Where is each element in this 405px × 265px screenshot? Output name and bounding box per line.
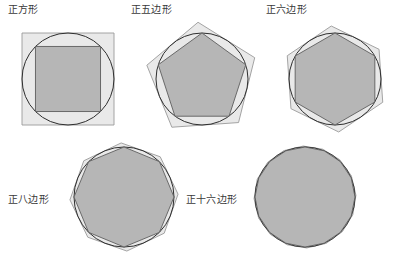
- panel-drawing-pentagon: [134, 18, 274, 146]
- panel-drawing-square: [0, 18, 140, 146]
- panel-label-hexadecagon: 正十六边形: [186, 194, 237, 206]
- polygon-circle-figure: 正方形正五边形正六边形正八边形正十六边形: [0, 0, 405, 265]
- panel-drawing-hexadecagon: [240, 135, 405, 265]
- panel-drawing-hexagon: [268, 18, 405, 146]
- inscribed-polygon-hexadecagon: [255, 147, 355, 247]
- panel-label-square: 正方形: [8, 4, 39, 16]
- panel-drawing-octagon: [56, 135, 196, 265]
- inscribed-polygon-square: [35, 46, 100, 111]
- panel-label-octagon: 正八边形: [8, 194, 49, 206]
- panel-label-pentagon: 正五边形: [131, 4, 172, 16]
- panel-label-hexagon: 正六边形: [266, 4, 307, 16]
- inscribed-polygon-octagon: [74, 147, 174, 247]
